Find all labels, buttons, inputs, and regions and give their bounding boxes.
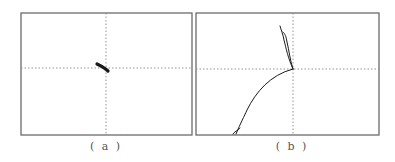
panel-b-frame [196,13,379,135]
figure-panel-b: ( b ) [0,0,395,162]
panel-b-plot [0,0,395,162]
panel-b-caption: ( b ) [262,140,322,153]
panel-b-trace [233,26,293,134]
